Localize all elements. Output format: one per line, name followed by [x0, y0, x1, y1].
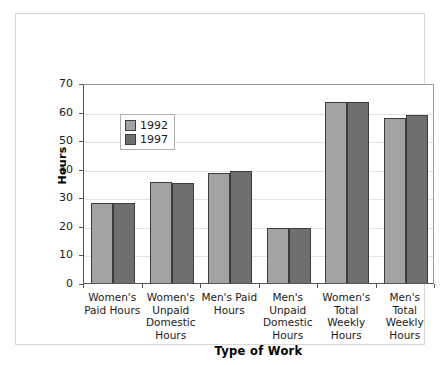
chart-page: Hours 010203040506070 Women'sPaid HoursW… [0, 0, 447, 365]
bar-group [260, 85, 319, 283]
y-axis-tick-label: 20 [49, 221, 73, 232]
x-axis-category-label: Men's PaidHours [200, 291, 258, 316]
x-axis-category-label-line: Domestic [142, 316, 200, 329]
x-axis-tick-mark [376, 284, 377, 288]
x-axis-category-label-line: Total [317, 304, 375, 317]
x-axis-category-label-line: Hours [317, 329, 375, 342]
x-axis-category-label-line: Paid Hours [83, 304, 141, 317]
bar-group [318, 85, 377, 283]
x-axis-tick-mark [83, 284, 84, 288]
legend-item[interactable]: 1992 [125, 118, 168, 132]
y-axis-tick-label: 50 [49, 135, 73, 146]
bar-group [201, 85, 260, 283]
chart-legend: 19921997 [120, 114, 175, 150]
x-axis-category-label-line: Women's [317, 291, 375, 304]
bar-1992[interactable] [267, 228, 289, 283]
x-axis-category-label: Women'sUnpaidDomesticHours [142, 291, 200, 341]
bar-1992[interactable] [325, 102, 347, 283]
x-axis-category-label-line: Men's Total [376, 291, 434, 316]
bar-1992[interactable] [150, 182, 172, 283]
bar-1997[interactable] [406, 115, 428, 283]
bar-1997[interactable] [172, 183, 194, 283]
bar-1997[interactable] [289, 228, 311, 283]
x-axis-category-label-line: Women's [142, 291, 200, 304]
chart-frame: Hours 010203040506070 Women'sPaid HoursW… [15, 13, 425, 345]
x-axis-tick-mark [434, 284, 435, 288]
x-axis-tick-mark [142, 284, 143, 288]
x-axis-category-label-line: Weekly [376, 316, 434, 329]
x-axis-tick-mark [317, 284, 318, 288]
x-axis-tick-mark [259, 284, 260, 288]
x-axis-category-label-line: Men's [259, 291, 317, 304]
legend-swatch-icon [125, 120, 136, 131]
bar-1997[interactable] [347, 102, 369, 283]
bar-1997[interactable] [113, 203, 135, 283]
y-axis-tick-label: 10 [49, 249, 73, 260]
x-axis-category-label-line: Women's [83, 291, 141, 304]
y-axis-tick-label: 70 [49, 78, 73, 89]
x-axis-category-label-line: Hours [259, 329, 317, 342]
x-axis-category-label: Women'sPaid Hours [83, 291, 141, 316]
legend-item[interactable]: 1997 [125, 132, 168, 146]
legend-swatch-icon [125, 134, 136, 145]
bar-1997[interactable] [230, 171, 252, 283]
legend-label: 1997 [140, 134, 168, 145]
bar-1992[interactable] [91, 203, 113, 283]
x-axis-category-label: Women'sTotalWeeklyHours [317, 291, 375, 341]
x-axis-category-label-line: Hours [200, 304, 258, 317]
bar-group [377, 85, 436, 283]
bar-1992[interactable] [384, 118, 406, 283]
x-axis-category-label-line: Hours [142, 329, 200, 342]
x-axis-category-label-line: Men's Paid [200, 291, 258, 304]
x-axis-tick-mark [200, 284, 201, 288]
x-axis-category-label: Men'sUnpaidDomesticHours [259, 291, 317, 341]
legend-label: 1992 [140, 120, 168, 131]
bar-1992[interactable] [208, 173, 230, 283]
x-axis-category-label: Men's TotalWeeklyHours [376, 291, 434, 341]
x-axis-category-label-line: Domestic [259, 316, 317, 329]
x-axis-category-label-line: Unpaid [259, 304, 317, 317]
y-axis-tick-label: 40 [49, 164, 73, 175]
y-axis-tick-label: 30 [49, 192, 73, 203]
x-axis-category-label-line: Unpaid [142, 304, 200, 317]
y-axis-tick-label: 60 [49, 107, 73, 118]
x-axis-category-label-line: Weekly [317, 316, 375, 329]
x-axis-title: Type of Work [83, 344, 434, 358]
y-axis-tick-label: 0 [49, 278, 73, 289]
x-axis-category-label-line: Hours [376, 329, 434, 342]
